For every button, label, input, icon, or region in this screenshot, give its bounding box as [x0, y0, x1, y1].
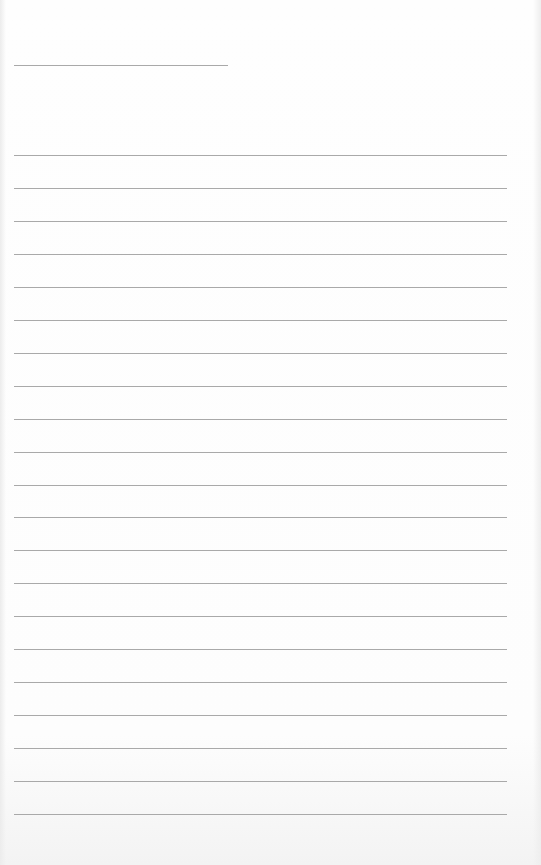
writing-line: [14, 616, 507, 617]
writing-line: [14, 188, 507, 189]
writing-line: [14, 254, 507, 255]
writing-line: [14, 583, 507, 584]
writing-line: [14, 386, 507, 387]
header-line: [14, 65, 228, 66]
writing-line: [14, 485, 507, 486]
writing-line: [14, 682, 507, 683]
writing-line: [14, 155, 507, 156]
writing-line: [14, 781, 507, 782]
page-left-edge-shadow: [0, 0, 6, 865]
lined-paper-sheet: [0, 0, 541, 865]
writing-line: [14, 221, 507, 222]
writing-line: [14, 814, 507, 815]
writing-line: [14, 748, 507, 749]
page-right-edge-shadow: [533, 0, 541, 865]
writing-line: [14, 517, 507, 518]
writing-line: [14, 452, 507, 453]
writing-line: [14, 715, 507, 716]
writing-line: [14, 287, 507, 288]
writing-line: [14, 649, 507, 650]
writing-line: [14, 550, 507, 551]
writing-line: [14, 419, 507, 420]
writing-line: [14, 320, 507, 321]
writing-line: [14, 353, 507, 354]
